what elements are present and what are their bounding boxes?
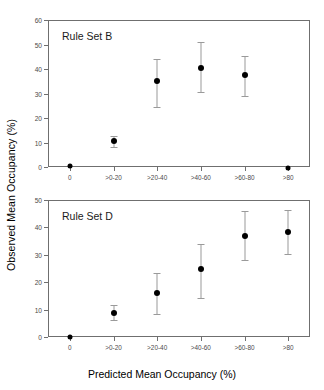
error-bar-cap [154,59,161,60]
error-bar-cap [241,211,248,212]
error-bar-cap [110,136,117,137]
y-tick-label: 20 [35,115,42,122]
y-tick-mark [44,94,48,95]
y-tick-mark [44,255,48,256]
x-axis-title: Predicted Mean Occupancy (%) [0,368,324,380]
error-bar-cap [197,244,204,245]
panel-title-bottom: Rule Set D [62,210,113,222]
x-tick-label: >80 [283,344,294,351]
y-tick-label: 30 [35,251,42,258]
panel-title-top: Rule Set B [62,30,112,42]
y-tick-mark [44,310,48,311]
x-tick-mark [157,337,158,341]
figure-container: Observed Mean Occupancy (%) Rule Set B 0… [0,0,324,390]
panel-rule-set-d: Rule Set D 010203040500>0-20>20-40>40-60… [0,190,324,390]
x-tick-label: >60-80 [234,174,254,181]
x-tick-label: >0-20 [105,344,122,351]
error-bar-cap [285,210,292,211]
data-point [111,138,117,144]
x-tick-mark [114,167,115,171]
y-tick-mark [44,118,48,119]
x-tick-mark [114,337,115,341]
x-tick-label: 0 [68,344,72,351]
error-bar-cap [241,260,248,261]
y-tick-label: 50 [35,41,42,48]
data-point [154,290,160,296]
data-point [111,310,117,316]
y-tick-mark [44,337,48,338]
y-tick-label: 0 [38,334,42,341]
y-tick-mark [44,20,48,21]
y-tick-label: 0 [38,164,42,171]
x-tick-label: >20-40 [147,344,167,351]
error-bar-cap [110,147,117,148]
x-tick-label: >80 [283,174,294,181]
y-tick-mark [44,227,48,228]
error-bar-cap [285,254,292,255]
x-tick-label: >20-40 [147,174,167,181]
error-bar-cap [110,320,117,321]
y-tick-label: 60 [35,17,42,24]
x-tick-mark [245,337,246,341]
data-point [285,229,291,235]
y-tick-label: 10 [35,139,42,146]
y-tick-label: 40 [35,224,42,231]
error-bar-cap [241,56,248,57]
x-tick-mark [201,337,202,341]
error-bar-cap [241,96,248,97]
y-tick-label: 40 [35,66,42,73]
y-tick-mark [44,200,48,201]
data-point [154,78,160,84]
y-tick-label: 10 [35,306,42,313]
error-bar-cap [154,314,161,315]
error-bar-cap [154,273,161,274]
y-tick-mark [44,69,48,70]
y-tick-label: 20 [35,279,42,286]
x-tick-label: >0-20 [105,174,122,181]
error-bar-cap [110,305,117,306]
y-tick-mark [44,143,48,144]
error-bar-cap [197,298,204,299]
x-tick-mark [245,167,246,171]
y-tick-mark [44,282,48,283]
x-tick-label: >60-80 [234,344,254,351]
plot-frame-top [48,20,310,167]
y-tick-mark [44,167,48,168]
y-tick-mark [44,45,48,46]
error-bar-cap [154,107,161,108]
data-point [67,164,72,169]
error-bar-cap [197,92,204,93]
y-tick-label: 30 [35,90,42,97]
x-tick-label: >40-60 [191,174,211,181]
data-point [286,165,291,170]
error-bar-cap [197,42,204,43]
x-tick-mark [201,167,202,171]
data-point [242,72,248,78]
data-point [242,233,248,239]
data-point [198,266,204,272]
data-point [67,335,72,340]
x-tick-label: >40-60 [191,344,211,351]
panel-rule-set-b: Rule Set B 01020304050600>0-20>20-40>40-… [0,0,324,190]
x-tick-mark [288,337,289,341]
data-point [198,65,204,71]
x-tick-mark [157,167,158,171]
y-tick-label: 50 [35,197,42,204]
x-tick-label: 0 [68,174,72,181]
